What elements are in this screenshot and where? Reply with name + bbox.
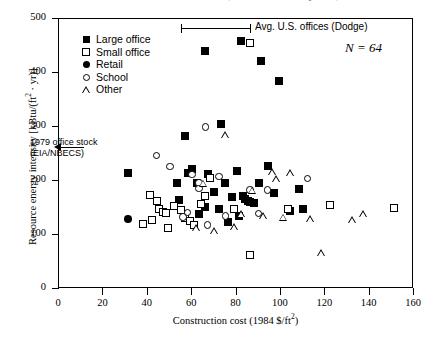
data-point-filled-square — [275, 77, 283, 85]
data-point-filled-square — [215, 205, 223, 213]
filled-square-icon — [78, 36, 94, 43]
x-tick-label: 160 — [393, 297, 431, 308]
data-point-open-square — [139, 220, 147, 228]
legend-item: Large office — [78, 33, 151, 46]
data-point-open-square — [326, 201, 334, 209]
data-point-open-circle — [215, 173, 223, 181]
open-square-icon — [78, 48, 94, 56]
data-point-open-triangle — [192, 224, 200, 231]
x-tick-label: 0 — [38, 297, 78, 308]
legend-item-label: Retail — [94, 58, 123, 71]
data-point-open-square — [206, 174, 214, 182]
sample-size-label: N = 64 — [345, 40, 382, 56]
data-point-filled-square — [217, 120, 225, 128]
x-tick-label: 40 — [127, 297, 167, 308]
errorbar-label: Avg. U.S. offices (Dodge) — [255, 21, 367, 32]
office-stock-arrow-line — [58, 147, 84, 148]
data-point-filled-square — [221, 179, 229, 187]
data-point-open-triangle — [199, 180, 207, 187]
office-stock-arrow-head — [54, 143, 61, 151]
data-point-open-square — [201, 192, 209, 200]
x-tick — [147, 288, 148, 295]
legend-item-label: School — [94, 71, 128, 84]
x-tick-label: 100 — [260, 297, 300, 308]
legend-item-label: Small office — [94, 46, 150, 59]
x-tick — [324, 288, 325, 295]
errorbar-cap-left — [181, 24, 182, 33]
data-point-filled-square — [181, 132, 189, 140]
data-point-open-triangle — [259, 212, 267, 219]
data-point-open-triangle — [237, 210, 245, 217]
data-point-filled-square — [195, 210, 203, 218]
data-point-filled-circle — [124, 215, 132, 223]
data-point-open-triangle — [221, 131, 229, 138]
open-circle-icon — [78, 74, 94, 81]
x-axis-title: Construction cost (1984 $/ft2) — [58, 312, 413, 326]
data-point-filled-circle — [244, 197, 252, 205]
legend-item-label: Large office — [94, 33, 151, 46]
x-tick — [102, 288, 103, 295]
data-point-open-triangle — [268, 168, 276, 175]
y-tick — [52, 126, 59, 127]
data-point-open-circle — [153, 152, 161, 160]
data-point-open-triangle — [317, 249, 325, 256]
y-tick — [52, 18, 59, 19]
data-point-filled-square — [173, 179, 181, 187]
data-point-open-square — [153, 197, 161, 205]
data-point-filled-square — [295, 185, 303, 193]
data-point-filled-square — [228, 193, 236, 201]
data-point-open-circle — [166, 163, 174, 171]
cropped-caption-text: A Ratio 2, A A A 3 2 4 8, J W 4 8 2 6 9,… — [4, 0, 339, 1]
x-tick-label: 20 — [82, 297, 122, 308]
data-point-filled-square — [201, 47, 209, 55]
x-tick — [191, 288, 192, 295]
data-point-open-square — [164, 224, 172, 232]
data-point-open-triangle — [359, 210, 367, 217]
data-point-open-square — [197, 200, 205, 208]
data-point-open-square — [162, 209, 170, 217]
x-tick-label: 140 — [349, 297, 389, 308]
legend: Large officeSmall officeRetailSchoolOthe… — [78, 33, 151, 96]
legend-item: Small office — [78, 46, 151, 59]
x-tick — [236, 288, 237, 295]
office-stock-line1: 1979 office stock — [30, 137, 97, 148]
figure-container: A Ratio 2, A A A 3 2 4 8, J W 4 8 2 6 9,… — [0, 0, 431, 339]
data-point-filled-square — [257, 57, 265, 65]
office-stock-line2: (EIA/NBECS) — [30, 148, 97, 159]
data-point-open-triangle — [248, 187, 256, 194]
errorbar-cap-right — [250, 24, 251, 33]
x-tick — [369, 288, 370, 295]
y-tick — [52, 288, 59, 289]
data-point-open-triangle — [279, 214, 287, 221]
legend-item: Other — [78, 83, 151, 96]
cropped-caption-sliver: A Ratio 2, A A A 3 2 4 8, J W 4 8 2 6 9,… — [0, 0, 431, 11]
data-point-filled-square — [210, 188, 218, 196]
data-point-open-circle — [222, 212, 230, 220]
y-tick-label: 500 — [6, 12, 46, 22]
open-triangle-icon — [78, 86, 94, 93]
x-tick — [413, 288, 414, 295]
data-point-open-square — [284, 205, 292, 213]
errorbar-line — [181, 28, 251, 29]
data-point-open-triangle — [286, 169, 294, 176]
data-point-open-triangle — [230, 223, 238, 230]
data-point-open-square — [246, 39, 254, 47]
y-tick — [52, 72, 59, 73]
data-point-open-square — [148, 216, 156, 224]
x-tick — [280, 288, 281, 295]
data-point-open-circle — [304, 175, 312, 183]
data-point-open-triangle — [210, 227, 218, 234]
data-point-open-square — [390, 204, 398, 212]
y-tick — [52, 234, 59, 235]
data-point-filled-square — [237, 37, 245, 45]
legend-item: Retail — [78, 58, 151, 71]
y-tick — [52, 180, 59, 181]
data-point-open-circle — [202, 123, 210, 131]
x-tick-label: 80 — [216, 297, 256, 308]
data-point-open-triangle — [272, 175, 280, 182]
data-point-filled-square — [270, 189, 278, 197]
data-point-open-triangle — [306, 215, 314, 222]
data-point-open-circle — [184, 209, 192, 217]
data-point-filled-square — [233, 167, 241, 175]
data-point-filled-square — [124, 169, 132, 177]
